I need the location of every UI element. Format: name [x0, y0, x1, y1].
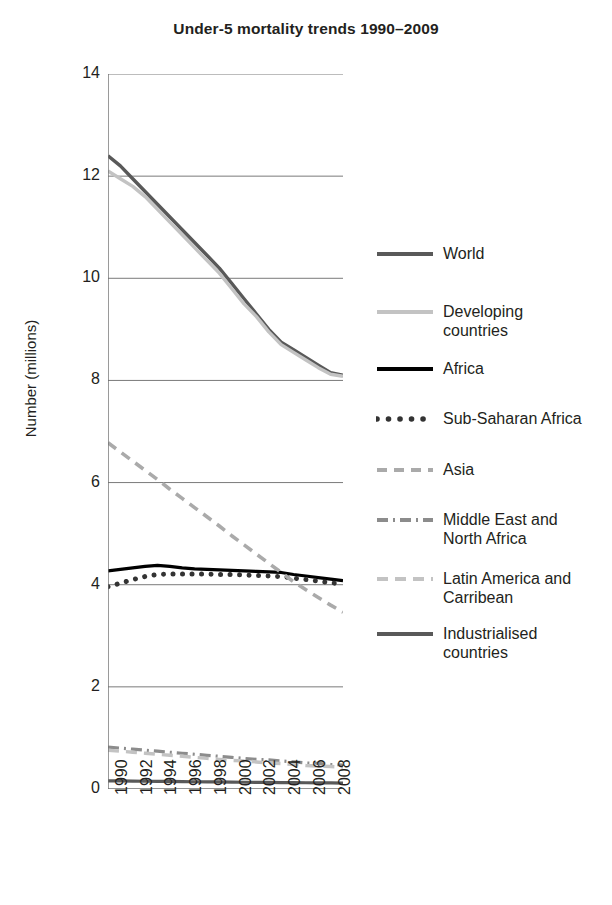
legend-swatch-asia [376, 462, 434, 478]
legend-label-africa: Africa [443, 359, 484, 378]
legend-label-middle-east-and-north-africa: Middle East and North Africa [443, 510, 558, 548]
y-tick-label: 14 [58, 65, 100, 81]
x-tick-label: 2000 [238, 759, 254, 795]
series-line-world [108, 156, 343, 376]
x-tick-label: 1990 [114, 759, 130, 795]
legend-swatch-world [376, 246, 434, 262]
x-tick-label: 2004 [287, 759, 303, 795]
legend-swatch-africa [376, 361, 434, 377]
x-tick-label: 1996 [188, 759, 204, 795]
y-tick-label: 10 [58, 269, 100, 285]
axis-lines [108, 74, 343, 789]
x-tick-label: 2002 [262, 759, 278, 795]
legend-label-industrialised-countries: Industrialised countries [443, 624, 537, 662]
y-tick-label: 8 [58, 371, 100, 387]
legend-label-world: World [443, 244, 485, 263]
legend-label-asia: Asia [443, 460, 474, 479]
axis-ticks [108, 74, 331, 789]
legend-label-developing-countries: Developing countries [443, 302, 523, 340]
x-tick-label: 1994 [163, 759, 179, 795]
legend-swatch-middle-east-and-north-africa [376, 512, 434, 528]
plot-area [108, 74, 343, 789]
legend-label-sub-saharan-africa: Sub-Saharan Africa [443, 409, 582, 428]
y-axis-tick-labels: 02468101214 [50, 0, 100, 905]
y-tick-label: 0 [58, 780, 100, 796]
legend-label-latin-america-and-carribean: Latin America and Carribean [443, 569, 571, 607]
y-tick-label: 2 [58, 678, 100, 694]
x-axis-tick-labels: 1990199219941996199820002002200420062008 [108, 795, 343, 895]
y-axis-title: Number (millions) [22, 279, 39, 479]
chart-plot-svg [108, 74, 343, 789]
legend-swatch-industrialised-countries [376, 626, 434, 642]
series-line-asia [108, 443, 343, 613]
x-tick-label: 2008 [337, 759, 353, 795]
series-lines [108, 156, 343, 783]
x-tick-label: 2006 [312, 759, 328, 795]
y-tick-label: 4 [58, 576, 100, 592]
chart-figure: Under-5 mortality trends 1990–2009 Numbe… [0, 0, 612, 905]
x-tick-label: 1998 [213, 759, 229, 795]
x-tick-label: 1992 [139, 759, 155, 795]
y-tick-label: 6 [58, 474, 100, 490]
legend-swatch-developing-countries [376, 304, 434, 320]
gridlines [108, 74, 343, 687]
legend-swatch-sub-saharan-africa [376, 411, 434, 427]
y-tick-label: 12 [58, 167, 100, 183]
legend-swatch-latin-america-and-carribean [376, 571, 434, 587]
